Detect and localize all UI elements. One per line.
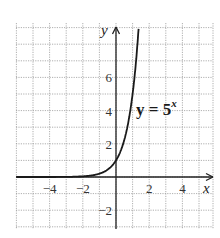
y-tick-label: 2	[106, 137, 113, 152]
x-tick-label: −2	[76, 181, 90, 196]
chart: −4−224−2246 x y y = 5x	[0, 0, 220, 238]
y-tick-label: 6	[106, 70, 113, 85]
x-tick-label: 2	[146, 181, 153, 196]
y-tick-label: −2	[98, 203, 112, 218]
y-axis-label: y	[99, 22, 108, 38]
x-axis-label: x	[202, 180, 210, 196]
tick-labels: −4−224−2246	[43, 70, 186, 218]
x-tick-label: 4	[179, 181, 186, 196]
axes	[16, 27, 213, 229]
series-line-y-5-x	[16, 29, 138, 177]
function-label-exponent: x	[170, 97, 177, 109]
function-label-text: y = 5	[136, 100, 171, 119]
grid	[16, 23, 213, 229]
series-group	[16, 29, 138, 177]
y-tick-label: 4	[106, 104, 113, 119]
function-label: y = 5x	[136, 97, 177, 119]
x-tick-label: −4	[43, 181, 57, 196]
